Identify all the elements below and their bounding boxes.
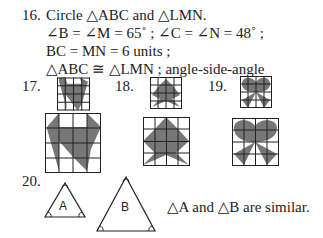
triangle-b-label: B [121,198,129,216]
problem-16-line-4: △ABC ≅ △LMN ; angle-side-angle [46,60,265,78]
problem-18-large-grid [143,117,190,166]
problem-20-number: 20. [22,172,41,190]
problem-17-large-grid [45,113,101,173]
problem-17-number: 17. [22,77,41,95]
problem-16-line-3: BC = MN = 6 units ; [46,42,170,60]
problem-19-large-grid [232,118,279,166]
problem-18-number: 18. [115,77,134,95]
problem-20-statement: △A and △B are similar. [167,198,310,216]
problem-16-line-1: Circle △ABC and △LMN. [46,6,207,24]
problem-18-small-grid [150,77,182,109]
problem-16-line-2: ∠B = ∠M = 65˚ ; ∠C = ∠N = 48˚ ; [46,24,264,42]
problem-19-number: 19. [208,77,227,95]
triangle-a-label: A [59,197,67,215]
problem-17-small-grid [57,77,90,111]
problem-19-small-grid [240,76,272,108]
problem-16-number: 16. [22,6,41,24]
